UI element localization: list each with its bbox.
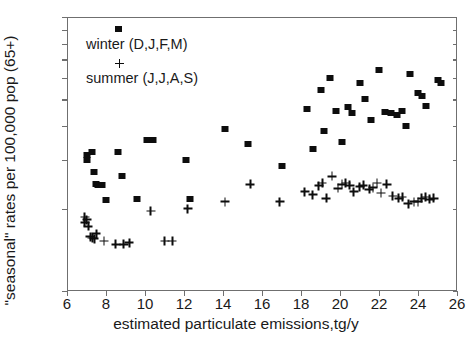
data-point-winter <box>321 128 328 134</box>
y-tick-inner-500 <box>453 99 457 100</box>
y-tick-inner-400 <box>453 126 457 127</box>
x-tick-label-14: 14 <box>215 295 232 312</box>
legend-marker-winter <box>115 26 122 32</box>
data-point-winter <box>303 106 310 112</box>
y-tick-inner-600 <box>453 78 457 79</box>
data-point-winter <box>399 108 406 114</box>
data-point-summer <box>382 180 391 189</box>
data-point-winter <box>344 104 351 110</box>
data-point-winter <box>418 93 425 99</box>
data-point-winter <box>91 169 98 175</box>
data-point-summer <box>429 194 438 203</box>
plot-area: 1001000 68101214161820222426 winter (D,J… <box>67 17 457 291</box>
data-point-summer <box>376 188 385 197</box>
data-point-summer <box>100 237 109 246</box>
data-point-summer <box>328 172 337 181</box>
data-point-winter <box>348 110 355 116</box>
y-tick-900 <box>62 30 67 31</box>
data-point-winter <box>99 182 106 188</box>
y-tick-700 <box>62 59 67 60</box>
data-point-summer <box>318 178 327 187</box>
data-point-winter <box>309 146 316 152</box>
data-point-winter <box>376 67 383 73</box>
data-point-winter <box>114 149 121 155</box>
y-tick-400 <box>62 126 67 127</box>
data-point-summer <box>275 197 284 206</box>
y-tick-inner-300 <box>453 160 457 161</box>
data-point-winter <box>83 157 90 163</box>
x-tick-label-22: 22 <box>371 295 388 312</box>
data-point-winter <box>245 141 252 147</box>
data-point-winter <box>403 123 410 129</box>
x-tick-label-26: 26 <box>449 295 466 312</box>
y-tick-inner-200 <box>453 209 457 210</box>
data-point-summer <box>308 190 317 199</box>
data-point-winter <box>89 149 96 155</box>
data-point-summer <box>246 180 255 189</box>
x-tick-label-24: 24 <box>410 295 427 312</box>
data-point-winter <box>221 126 228 132</box>
data-point-winter <box>182 157 189 163</box>
data-point-winter <box>333 108 340 114</box>
y-axis-title: "seasonal" rates per 100,000 pop (65+) <box>0 0 22 341</box>
x-tick-label-10: 10 <box>137 295 154 312</box>
y-tick-600 <box>62 78 67 79</box>
x-tick-label-8: 8 <box>102 295 110 312</box>
data-point-winter <box>134 196 141 202</box>
y-tick-inner-700 <box>453 59 457 60</box>
x-tick-label-20: 20 <box>332 295 349 312</box>
data-point-winter <box>317 87 324 93</box>
data-point-winter <box>278 163 285 169</box>
data-point-summer <box>220 197 229 206</box>
data-point-winter <box>422 103 429 109</box>
data-point-winter <box>149 137 156 143</box>
data-point-winter <box>438 80 445 86</box>
data-point-winter <box>356 80 363 86</box>
data-point-summer <box>322 194 331 203</box>
data-point-winter <box>186 196 193 202</box>
data-point-summer <box>168 237 177 246</box>
data-point-summer <box>183 204 192 213</box>
data-point-winter <box>327 75 334 81</box>
y-tick-1000 <box>62 17 67 18</box>
plot-frame <box>67 17 457 291</box>
y-tick-500 <box>62 99 67 100</box>
y-tick-inner-1000 <box>453 17 457 18</box>
y-tick-inner-800 <box>453 44 457 45</box>
x-axis-title: estimated particulate emissions,tg/y <box>0 315 472 333</box>
data-point-winter <box>118 173 125 179</box>
data-point-winter <box>362 96 369 102</box>
y-tick-800 <box>62 44 67 45</box>
x-tick-label-6: 6 <box>63 295 71 312</box>
y-tick-inner-900 <box>453 30 457 31</box>
data-point-winter <box>407 71 414 77</box>
legend-label-summer: summer (J,J,A,S) <box>86 70 198 86</box>
data-point-summer <box>146 206 155 215</box>
data-point-winter <box>338 139 345 145</box>
data-point-winter <box>103 197 110 203</box>
chart-root: "seasonal" rates per 100,000 pop (65+) e… <box>0 0 472 341</box>
y-tick-300 <box>62 160 67 161</box>
data-point-summer <box>125 238 134 247</box>
data-point-winter <box>368 117 375 123</box>
legend-marker-summer <box>115 59 124 68</box>
x-tick-label-12: 12 <box>176 295 193 312</box>
data-point-summer <box>373 178 382 187</box>
x-tick-label-18: 18 <box>293 295 310 312</box>
y-tick-200 <box>62 209 67 210</box>
x-tick-label-16: 16 <box>254 295 271 312</box>
legend-label-winter: winter (D,J,F,M) <box>86 36 188 52</box>
